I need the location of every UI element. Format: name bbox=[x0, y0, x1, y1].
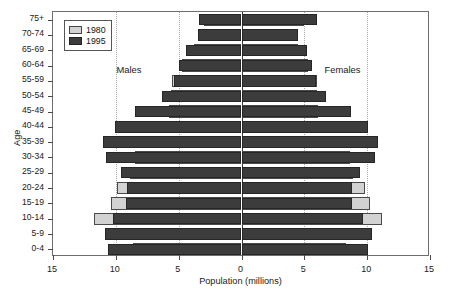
bar-1995-males-20-24 bbox=[127, 182, 241, 193]
y-axis-tick bbox=[48, 203, 53, 204]
bar-1995-males-40-44 bbox=[115, 121, 242, 132]
y-axis-tick bbox=[48, 112, 53, 113]
y-axis-tick bbox=[48, 157, 53, 158]
age-label-15-19: 15-19 bbox=[0, 198, 44, 207]
bar-1995-males-45-49 bbox=[135, 106, 242, 117]
y-axis-tick bbox=[48, 188, 53, 189]
age-label-70-74: 70-74 bbox=[0, 29, 44, 38]
x-axis-label-0: 15 bbox=[37, 264, 67, 274]
bar-1995-males-25-29 bbox=[121, 167, 242, 178]
x-axis-label-6: 15 bbox=[414, 264, 444, 274]
y-axis-tick bbox=[48, 81, 53, 82]
x-axis-title: Population (millions) bbox=[161, 276, 321, 286]
pyramid-row bbox=[53, 165, 428, 180]
y-axis-tick bbox=[48, 127, 53, 128]
y-axis-tick bbox=[48, 20, 53, 21]
legend-label-1995: 1995 bbox=[86, 37, 106, 46]
y-axis-tick bbox=[48, 50, 53, 51]
pyramid-row bbox=[53, 119, 428, 134]
age-label-5-9: 5-9 bbox=[0, 229, 44, 238]
x-axis-label-4: 5 bbox=[288, 264, 318, 274]
pyramid-row bbox=[53, 104, 428, 119]
y-axis-tick bbox=[48, 96, 53, 97]
pyramid-row bbox=[53, 73, 428, 88]
bar-1995-females-50-54 bbox=[242, 91, 326, 102]
age-label-75+: 75+ bbox=[0, 14, 44, 23]
bar-1995-females-10-14 bbox=[242, 213, 364, 224]
x-axis-tick bbox=[53, 255, 54, 260]
x-axis-tick bbox=[179, 255, 180, 260]
bar-1995-males-70-74 bbox=[198, 29, 242, 40]
bar-1995-males-0-4 bbox=[108, 244, 241, 255]
age-label-55-59: 55-59 bbox=[0, 75, 44, 84]
age-label-0-4: 0-4 bbox=[0, 244, 44, 253]
age-label-50-54: 50-54 bbox=[0, 91, 44, 100]
age-label-35-39: 35-39 bbox=[0, 137, 44, 146]
pyramid-row bbox=[53, 135, 428, 150]
bar-1995-females-35-39 bbox=[242, 136, 379, 147]
bar-1995-males-5-9 bbox=[105, 228, 242, 239]
y-axis-tick bbox=[48, 173, 53, 174]
bar-1995-females-30-34 bbox=[242, 152, 375, 163]
bar-1995-females-60-64 bbox=[242, 60, 312, 71]
pyramid-row bbox=[53, 226, 428, 241]
bar-1995-males-35-39 bbox=[103, 136, 241, 147]
pyramid-row bbox=[53, 211, 428, 226]
pyramid-row bbox=[53, 150, 428, 165]
y-axis-tick bbox=[48, 219, 53, 220]
bar-1995-females-65-69 bbox=[242, 45, 307, 56]
bar-1995-males-55-59 bbox=[174, 75, 242, 86]
bar-1995-females-15-19 bbox=[242, 198, 353, 209]
age-label-65-69: 65-69 bbox=[0, 45, 44, 54]
legend-label-1980: 1980 bbox=[86, 26, 106, 35]
y-axis-tick bbox=[48, 234, 53, 235]
bar-1995-females-75+ bbox=[242, 14, 317, 25]
bar-1995-males-30-34 bbox=[106, 152, 242, 163]
plot-area: Males Females 1980 1995 bbox=[52, 11, 429, 256]
x-axis-label-3: 0 bbox=[226, 264, 256, 274]
y-axis-tick bbox=[48, 142, 53, 143]
bar-1995-males-10-14 bbox=[113, 213, 241, 224]
y-axis-tick bbox=[48, 249, 53, 250]
age-label-40-44: 40-44 bbox=[0, 121, 44, 130]
legend-swatch-1995 bbox=[69, 37, 82, 45]
pyramid-row bbox=[53, 180, 428, 195]
pyramid-row bbox=[53, 242, 428, 257]
females-side-label: Females bbox=[325, 64, 361, 75]
bar-1995-males-50-54 bbox=[162, 91, 241, 102]
y-axis-tick bbox=[48, 66, 53, 67]
x-axis-label-1: 10 bbox=[100, 264, 130, 274]
x-axis-tick bbox=[430, 255, 431, 260]
legend-swatch-1980 bbox=[69, 26, 82, 34]
bar-1995-females-5-9 bbox=[242, 228, 373, 239]
bar-1995-females-0-4 bbox=[242, 244, 369, 255]
pyramid-row bbox=[53, 89, 428, 104]
y-axis-tick bbox=[48, 35, 53, 36]
legend-item-1995: 1995 bbox=[69, 36, 106, 46]
population-pyramid-figure: Age 0-45-910-1415-1920-2425-2930-3435-39… bbox=[0, 0, 459, 291]
legend: 1980 1995 bbox=[64, 20, 112, 51]
x-axis-tick bbox=[304, 255, 305, 260]
bar-1995-females-20-24 bbox=[242, 182, 353, 193]
bar-1995-females-70-74 bbox=[242, 29, 299, 40]
bar-1995-males-60-64 bbox=[179, 60, 242, 71]
legend-item-1980: 1980 bbox=[69, 25, 106, 35]
males-side-label: Males bbox=[117, 64, 142, 75]
age-label-10-14: 10-14 bbox=[0, 213, 44, 222]
age-label-45-49: 45-49 bbox=[0, 106, 44, 115]
x-axis-label-5: 10 bbox=[351, 264, 381, 274]
bar-1995-females-40-44 bbox=[242, 121, 369, 132]
pyramid-row bbox=[53, 58, 428, 73]
bar-1995-males-15-19 bbox=[126, 198, 242, 209]
bar-1995-males-75+ bbox=[199, 14, 242, 25]
bar-1995-males-65-69 bbox=[186, 45, 241, 56]
bar-1995-females-55-59 bbox=[242, 75, 316, 86]
age-label-60-64: 60-64 bbox=[0, 60, 44, 69]
bar-1995-females-25-29 bbox=[242, 167, 360, 178]
x-axis-tick bbox=[242, 255, 243, 260]
pyramid-row bbox=[53, 196, 428, 211]
bar-1995-females-45-49 bbox=[242, 106, 351, 117]
age-label-30-34: 30-34 bbox=[0, 152, 44, 161]
x-axis-tick bbox=[116, 255, 117, 260]
x-axis-tick bbox=[367, 255, 368, 260]
